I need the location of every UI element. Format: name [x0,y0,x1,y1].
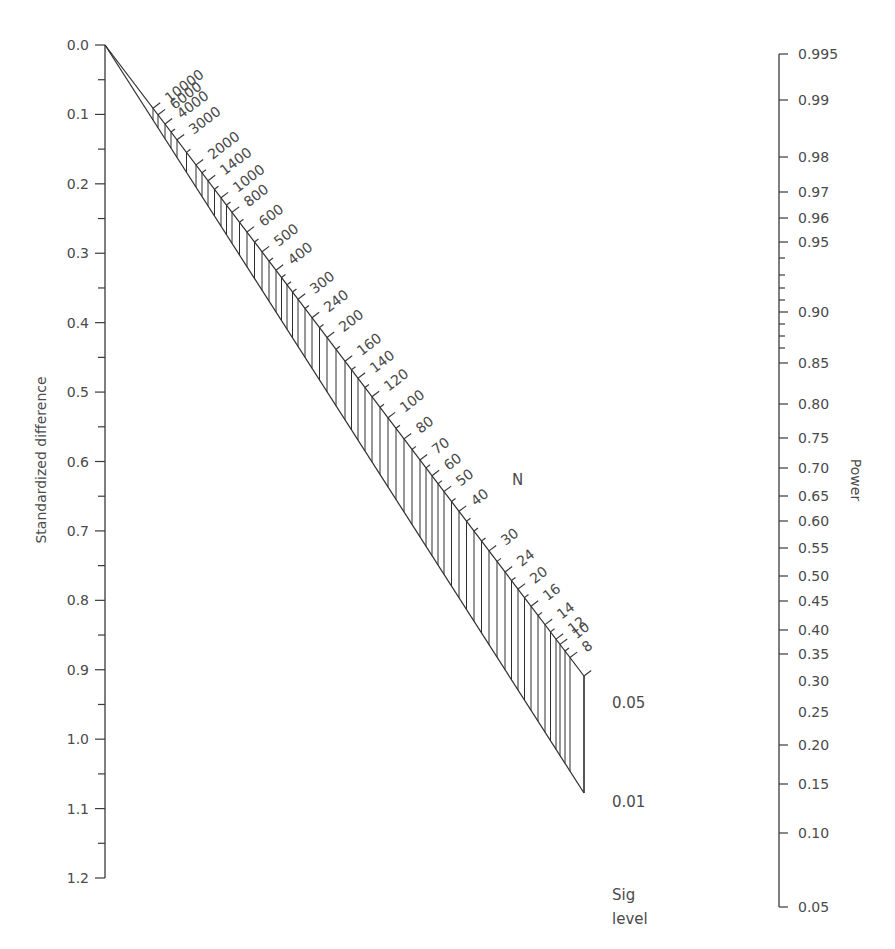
n-scale-label: N [512,471,523,489]
n-minor-tick [305,305,309,308]
power-tick-label: 0.10 [798,825,829,841]
n-major-tick [232,207,239,212]
n-minor-tick [287,282,291,285]
power-tick-label: 0.40 [798,622,829,638]
power-tick-label: 0.25 [798,704,829,720]
nomogram-chart: 0.00.10.20.30.40.50.60.70.80.91.01.11.2 … [0,0,895,949]
n-minor-tick [438,481,442,484]
n-major-tick [165,119,172,124]
power-tick-label: 0.20 [798,737,829,753]
tick-label: 0.2 [67,176,89,192]
power-tick-label: 0.99 [798,92,829,108]
n-major-tick [556,634,563,639]
n-tick-label: 8 [579,637,596,655]
n-major-tick [177,134,184,139]
n-minor-tick [482,538,486,541]
tick-label: 1.0 [67,731,89,747]
n-major-tick [158,109,165,114]
n-major-tick [327,332,334,337]
n-minor-tick [269,258,273,261]
power-tick-label: 0.30 [798,673,829,689]
tick-label: 0.1 [67,106,89,122]
n-major-tick [298,294,305,299]
tick-label: 0.4 [67,315,89,331]
n-major-tick [432,470,439,475]
n-tick-label: 240 [321,286,352,315]
n-major-tick [545,619,552,624]
n-minor-tick [352,367,356,370]
n-major-tick [312,312,319,317]
n-major-tick [276,265,283,270]
n-major-tick [196,159,203,164]
power-tick-label: 0.65 [798,488,829,504]
n-tick-label: 100 [397,386,428,415]
n-minor-tick [255,239,259,242]
n-tick-label: 40 [468,485,492,509]
power-tick-label: 0.75 [798,430,829,446]
n-major-tick [518,584,525,589]
n-minor-tick [538,612,542,615]
n-tick-label: 80 [413,413,437,437]
n-scale-labels: 1000060004000300020001400100080060050040… [162,66,596,655]
n-minor-tick [171,129,175,132]
n-major-tick [531,601,538,606]
n-minor-tick [320,325,324,328]
standardized-difference-axis: 0.00.10.20.30.40.50.60.70.80.91.01.11.2 [67,37,105,886]
n-minor-tick [525,595,529,598]
power-tick-label: 0.97 [798,184,829,200]
power-tick-label: 0.05 [798,899,829,915]
n-minor-tick [336,346,340,349]
power-tick-label: 0.35 [798,646,829,662]
n-major-tick [345,356,352,361]
n-tick-label: 400 [285,239,316,268]
power-tick-label: 0.95 [798,234,829,250]
n-major-tick [560,639,567,644]
n-tick-label: 120 [381,365,412,394]
n-major-tick [420,455,427,460]
n-minor-tick [240,219,244,222]
n-minor-tick [202,170,206,173]
n-tick-label: 200 [336,306,367,335]
power-axis: 0.9950.990.980.970.960.950.900.850.800.7… [779,46,838,915]
n-major-tick [208,175,215,180]
sig-level-001: 0.01 [612,793,645,811]
n-minor-tick [396,425,400,428]
sig-level-label-line1: Sig [612,886,635,904]
n-minor-tick [187,149,191,152]
tick-label: 0.3 [67,245,89,261]
power-tick-label: 0.55 [798,540,829,556]
tick-label: 0.9 [67,662,89,678]
n-major-tick [444,486,451,491]
tick-label: 0.0 [67,37,89,53]
sig-level-label-line2: level [612,910,648,928]
tick-label: 0.6 [67,454,89,470]
n-major-tick [262,246,269,251]
n-minor-tick [293,289,297,292]
power-tick-label: 0.70 [798,460,829,476]
n-minor-tick [412,446,416,449]
power-tick-label: 0.90 [798,304,829,320]
tick-label: 1.1 [67,801,89,817]
power-tick-label: 0.96 [798,210,829,226]
power-tick-label: 0.995 [798,46,838,62]
tick-label: 0.7 [67,523,89,539]
sig-level-005: 0.05 [612,694,645,712]
n-scale-diagonal [105,45,591,793]
n-tick-label: 24 [514,546,538,570]
n-minor-tick [497,558,501,561]
tick-label: 0.8 [67,592,89,608]
n-minor-tick [474,528,478,531]
n-major-tick [404,433,411,438]
n-tick-label: 50 [453,466,477,490]
n-minor-tick [215,186,219,189]
n-minor-tick [452,498,456,501]
n-minor-tick [282,274,286,277]
n-major-tick [372,391,379,396]
tick-label: 1.2 [67,870,89,886]
tick-label: 0.5 [67,384,89,400]
power-tick-label: 0.15 [798,776,829,792]
power-tick-label: 0.85 [798,355,829,371]
n-minor-tick [365,384,369,387]
n-minor-tick [227,202,231,205]
power-tick-label: 0.45 [798,593,829,609]
